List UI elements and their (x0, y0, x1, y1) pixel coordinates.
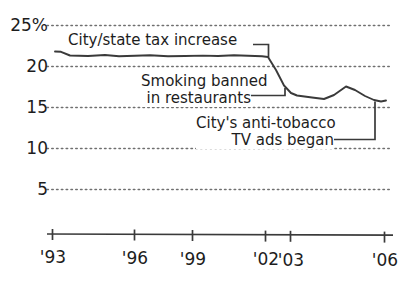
annotation-smoking-banned-line2: in restaurants (141, 90, 251, 107)
y-tick-label-20: 20 (8, 58, 48, 75)
chart-container: 25% 20 15 10 5 '93 '96 '99 '02 '03 '06 C… (0, 0, 406, 283)
x-tick-label-99: '99 (173, 251, 213, 268)
annotation-tax-increase-line1: City/state tax increase (68, 32, 237, 49)
annotation-tv-ads: City's anti-tobacco TV ads began (196, 115, 334, 149)
x-axis-line (47, 234, 393, 235)
x-tick-label-96: '96 (115, 250, 155, 267)
x-tick-label-93: '93 (33, 249, 73, 266)
annotation-smoking-banned-line1: Smoking banned (141, 73, 251, 90)
y-tick-label-10: 10 (8, 140, 48, 157)
annotation-tv-ads-line1: City's anti-tobacco (196, 115, 334, 132)
x-axis (47, 229, 393, 243)
y-tick-label-15: 15 (8, 99, 48, 116)
y-tick-label-25: 25% (8, 17, 48, 34)
annotation-tv-ads-line2: TV ads began (196, 132, 334, 149)
gridlines (47, 26, 392, 190)
annotation-smoking-banned: Smoking banned in restaurants (141, 73, 251, 107)
x-tick-label-06: '06 (365, 252, 405, 269)
y-tick-label-5: 5 (8, 181, 48, 198)
x-tick-label-03: '03 (271, 252, 311, 269)
annotation-tax-increase: City/state tax increase (68, 32, 237, 49)
